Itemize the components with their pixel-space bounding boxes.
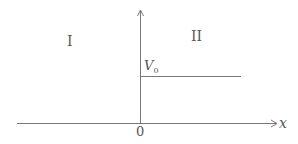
region-right-label: II — [191, 28, 202, 44]
potential-subscript: 0 — [153, 66, 158, 75]
x-axis-label: x — [279, 115, 287, 131]
potential-step-diagram: I II V0 0 x — [0, 0, 298, 144]
region-left-label: I — [67, 33, 73, 49]
origin-label: 0 — [136, 124, 144, 139]
potential-label: V0 — [144, 58, 158, 75]
